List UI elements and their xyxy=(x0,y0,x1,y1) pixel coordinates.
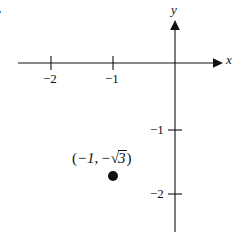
label-radicand: 3 xyxy=(118,150,127,166)
plot-canvas xyxy=(0,0,241,232)
y-tick-label-minus-1: −1 xyxy=(150,123,164,136)
problem-number: . xyxy=(0,2,1,15)
label-x-value: −1, xyxy=(77,150,98,166)
x-axis-arrowhead xyxy=(213,58,223,68)
x-axis-label: x xyxy=(226,53,232,66)
x-tick-label-minus-1: −1 xyxy=(105,72,119,85)
y-axis-label: y xyxy=(171,3,177,16)
label-close-paren: ) xyxy=(127,150,132,166)
plotted-point-marker xyxy=(108,171,118,181)
coordinate-plane-figure: . y x −2 −1 −1 −2 (−1,−√3) xyxy=(0,0,241,232)
y-axis-arrowhead xyxy=(170,20,180,30)
y-tick-label-minus-2: −2 xyxy=(150,187,164,200)
x-tick-label-minus-2: −2 xyxy=(43,72,57,85)
label-y-sign: − xyxy=(101,150,109,166)
point-coordinate-label: (−1,−√3) xyxy=(72,150,132,166)
square-root-expression: √3 xyxy=(110,150,127,166)
